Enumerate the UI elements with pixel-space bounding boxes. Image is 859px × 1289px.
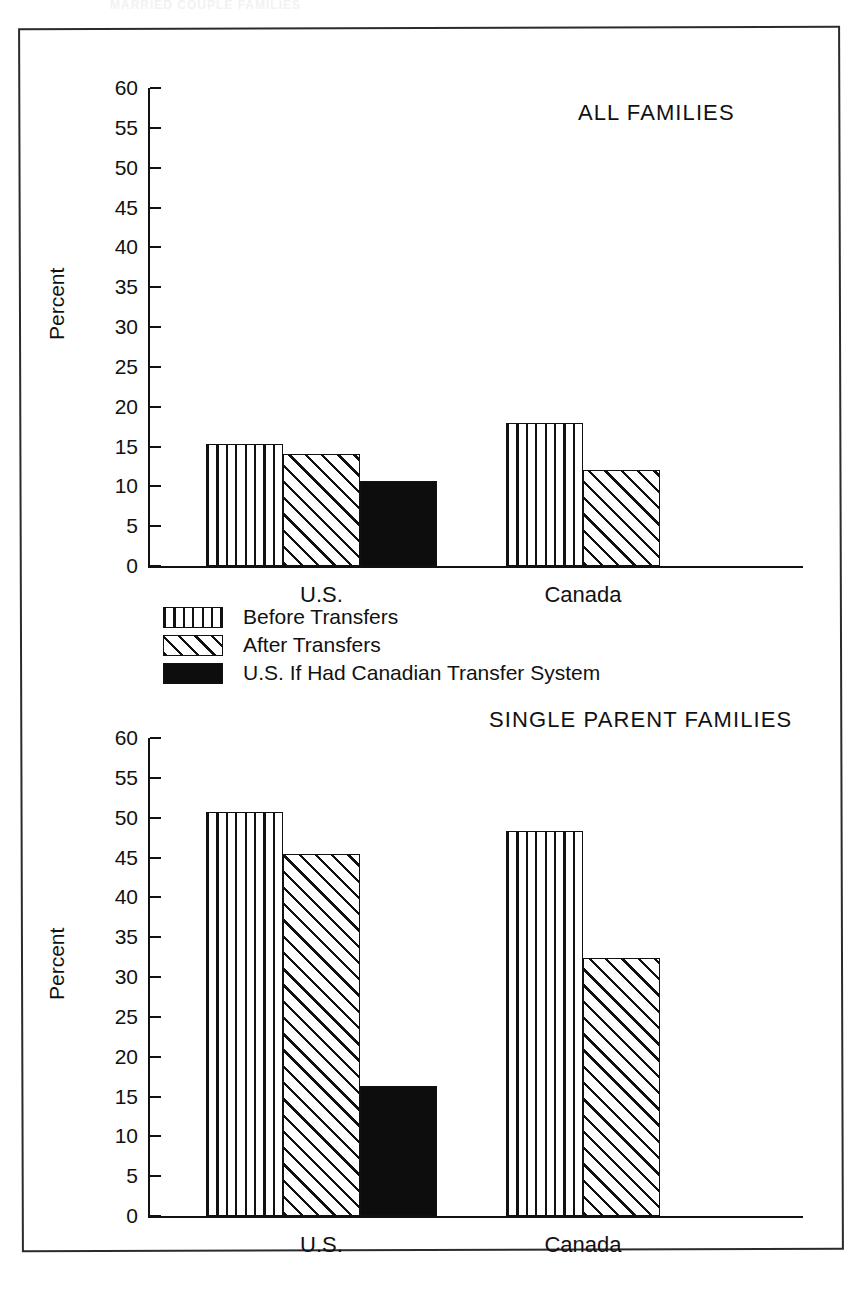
- bar-bottom-canada-before-transfers: [506, 831, 583, 1216]
- bar-bottom-u-s-u-s-if-had-canadian-transfer-system: [360, 1086, 437, 1216]
- plot-area-single-parent-families: 051015202530354045505560U.S.Canada: [148, 738, 803, 1216]
- y-tick-label-bottom-45: 45: [74, 847, 138, 868]
- y-tick-bottom-30: [150, 976, 161, 978]
- x-axis-line-bottom: [148, 1216, 803, 1218]
- x-category-label-bottom-u-s: U.S.: [206, 1232, 437, 1258]
- y-axis-title-bottom: Percent: [45, 928, 69, 1000]
- y-tick-bottom-35: [150, 936, 161, 938]
- y-tick-bottom-20: [150, 1056, 161, 1058]
- y-tick-bottom-0: [150, 1215, 161, 1217]
- y-tick-label-bottom-5: 5: [74, 1165, 138, 1186]
- y-tick-bottom-40: [150, 896, 161, 898]
- bar-bottom-canada-after-transfers: [583, 958, 660, 1216]
- y-tick-bottom-10: [150, 1135, 161, 1137]
- y-tick-bottom-60: [150, 737, 161, 739]
- figure-page: MARRIED COUPLE FAMILIES ALL FAMILIES Per…: [0, 0, 859, 1289]
- chart-title-single-parent-families: SINGLE PARENT FAMILIES: [489, 707, 792, 733]
- chart-panel-single-parent-families: SINGLE PARENT FAMILIES Percent 051015202…: [0, 0, 859, 1289]
- y-tick-label-bottom-60: 60: [74, 727, 138, 748]
- y-tick-label-bottom-0: 0: [74, 1205, 138, 1226]
- y-tick-label-bottom-55: 55: [74, 767, 138, 788]
- bar-bottom-u-s-before-transfers: [206, 812, 283, 1216]
- y-tick-label-bottom-30: 30: [74, 966, 138, 987]
- y-tick-label-bottom-20: 20: [74, 1046, 138, 1067]
- y-tick-bottom-45: [150, 857, 161, 859]
- y-tick-label-bottom-15: 15: [74, 1086, 138, 1107]
- y-tick-label-bottom-35: 35: [74, 926, 138, 947]
- y-tick-bottom-50: [150, 817, 161, 819]
- y-tick-label-bottom-10: 10: [74, 1125, 138, 1146]
- y-tick-bottom-25: [150, 1016, 161, 1018]
- y-tick-bottom-55: [150, 777, 161, 779]
- y-tick-bottom-5: [150, 1175, 161, 1177]
- x-category-label-bottom-canada: Canada: [506, 1232, 660, 1258]
- y-tick-label-bottom-40: 40: [74, 886, 138, 907]
- y-tick-bottom-15: [150, 1096, 161, 1098]
- y-tick-label-bottom-25: 25: [74, 1006, 138, 1027]
- y-tick-label-bottom-50: 50: [74, 807, 138, 828]
- bar-bottom-u-s-after-transfers: [283, 854, 360, 1216]
- y-axis-line-bottom: [148, 738, 150, 1218]
